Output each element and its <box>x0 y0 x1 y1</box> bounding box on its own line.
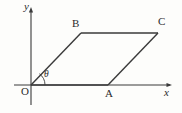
edge-AC <box>108 33 158 85</box>
geometry-figure: O A B C x y θ <box>0 0 182 113</box>
parallelogram-OABC <box>31 33 158 85</box>
y-axis-arrow-icon <box>29 7 33 13</box>
x-axis-label: x <box>164 87 169 98</box>
y-axis-label: y <box>24 1 29 12</box>
angle-label-theta: θ <box>44 70 49 80</box>
edge-BO <box>31 33 81 85</box>
point-label-O: O <box>21 86 29 97</box>
point-label-C: C <box>158 16 165 27</box>
point-label-A: A <box>105 88 113 99</box>
y-axis <box>29 7 33 105</box>
point-label-B: B <box>72 18 79 29</box>
